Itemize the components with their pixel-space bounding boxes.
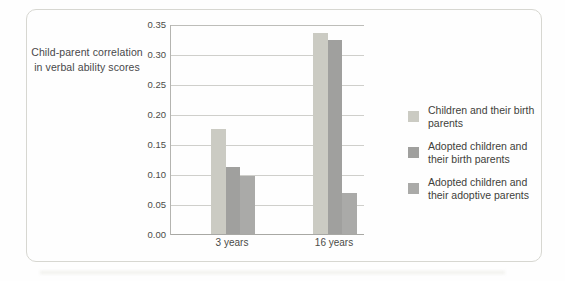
legend-item-3: Adopted children and their adoptive pare… — [408, 176, 544, 201]
x-tick-label: 3 years — [216, 237, 249, 248]
y-tick-label: 0.05 — [128, 199, 166, 211]
y-tick-label: 0.30 — [128, 49, 166, 61]
figure-scan: Child-parent correlation in verbal abili… — [0, 0, 565, 281]
legend-label: Children and their birth parents — [428, 104, 542, 129]
bar-3-years-series1 — [211, 129, 226, 234]
y-tick-label: 0.35 — [128, 19, 166, 31]
legend-swatch-icon — [408, 183, 419, 194]
bar-3-years-series2 — [226, 167, 241, 234]
y-tick-label: 0.20 — [128, 109, 166, 121]
y-tick-label: 0.00 — [128, 229, 166, 241]
y-tick-label: 0.15 — [128, 139, 166, 151]
bar-3-years-series3 — [240, 176, 255, 234]
x-axis-tick-labels: 3 years16 years — [170, 237, 363, 251]
x-tick-label: 16 years — [315, 237, 353, 248]
legend-swatch-icon — [408, 111, 419, 122]
legend-label: Adopted children and their adoptive pare… — [428, 176, 542, 201]
legend-swatch-icon — [408, 147, 419, 158]
bar-16-years-series1 — [313, 33, 328, 234]
plot-area — [170, 25, 364, 235]
y-tick-label: 0.10 — [128, 169, 166, 181]
scan-shadow — [40, 271, 505, 274]
gridline — [171, 25, 364, 26]
chart-legend: Children and their birth parentsAdopted … — [408, 104, 544, 201]
legend-item-1: Children and their birth parents — [408, 104, 544, 129]
legend-label: Adopted children and their birth parents — [428, 140, 542, 165]
legend-item-2: Adopted children and their birth parents — [408, 140, 544, 165]
bar-16-years-series2 — [328, 40, 343, 234]
bar-16-years-series3 — [342, 193, 357, 234]
y-axis-tick-labels: 0.000.050.100.150.200.250.300.35 — [128, 25, 166, 235]
y-tick-label: 0.25 — [128, 79, 166, 91]
